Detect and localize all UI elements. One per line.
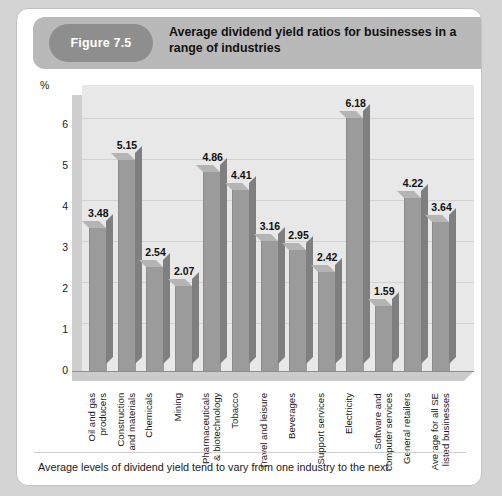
bar-value-label: 2.54: [145, 246, 165, 258]
bar-side-face: [363, 104, 370, 364]
bar-front-face: [432, 222, 450, 371]
bar-side-face: [278, 227, 285, 364]
bar-side-face: [335, 258, 342, 364]
bar-value-label: 4.41: [231, 169, 251, 181]
bar: 4.41: [232, 190, 249, 371]
bar-side-face: [220, 158, 227, 364]
x-axis-label: General retailers: [402, 393, 413, 464]
bar-side-face: [135, 146, 142, 364]
bar-side-face: [449, 208, 456, 364]
x-axis-label: Support services: [316, 393, 327, 464]
figure-caption: Average levels of dividend yield tend to…: [38, 461, 468, 473]
bar-value-label: 3.48: [88, 207, 108, 219]
figure-card: Figure 7.5 Average dividend yield ratios…: [16, 8, 482, 486]
bar-front-face: [232, 190, 250, 371]
x-axis-label: Construction and materials: [116, 393, 137, 451]
bar-side-face: [249, 176, 256, 364]
figure-number-badge: Figure 7.5: [49, 24, 153, 62]
bar-top-face: [82, 221, 106, 228]
x-axis-label: Electricity: [344, 393, 355, 434]
bar-top-face: [225, 183, 249, 190]
bar: 3.48: [89, 228, 106, 371]
bar: 2.07: [175, 286, 192, 371]
bar-side-face: [306, 236, 313, 364]
x-axis-label: Beverages: [287, 393, 298, 439]
x-axis-label: Chemicals: [144, 393, 155, 438]
bar-top-face: [397, 191, 421, 198]
bar-front-face: [175, 286, 193, 371]
bar-side-face: [106, 214, 113, 364]
caption-divider: [34, 452, 466, 453]
bar: 2.42: [318, 272, 335, 371]
bar-side-face: [392, 292, 399, 364]
bar-front-face: [118, 160, 136, 371]
bar: 1.59: [375, 306, 392, 371]
figure-header-band: Figure 7.5 Average dividend yield ratios…: [33, 17, 482, 69]
chart-bars: 3.485.152.542.074.864.413.162.952.426.18…: [34, 71, 482, 391]
bar-front-face: [89, 228, 107, 371]
bar-side-face: [421, 184, 428, 364]
bar-top-face: [425, 215, 449, 222]
bar: 4.86: [203, 172, 220, 371]
x-axis-label: Travel and leisure: [259, 393, 270, 469]
bar: 2.95: [289, 250, 306, 371]
bar-top-face: [339, 111, 363, 118]
bar-value-label: 3.16: [260, 220, 280, 232]
x-axis-label: Tobacco: [230, 393, 241, 429]
chart-plot-area: % 0123456 3.485.152.542.074.864.413.162.…: [34, 71, 482, 451]
bar: 2.54: [146, 267, 163, 371]
bar-top-face: [368, 299, 392, 306]
bar-value-label: 1.59: [374, 285, 394, 297]
bar-value-label: 2.42: [317, 251, 337, 263]
bar-value-label: 5.15: [117, 139, 137, 151]
bar-top-face: [168, 279, 192, 286]
bar-value-label: 4.22: [403, 177, 423, 189]
bar-front-face: [318, 272, 336, 371]
bar-front-face: [346, 118, 364, 371]
bar-side-face: [163, 253, 170, 364]
x-axis-label: Mining: [173, 393, 184, 421]
bar: 4.22: [404, 198, 421, 371]
x-axis-label: Oil and gas producers: [87, 393, 108, 442]
bar-value-label: 2.95: [288, 229, 308, 241]
bar-front-face: [261, 241, 279, 371]
bar-front-face: [146, 267, 164, 371]
bar: 6.18: [346, 118, 363, 371]
bar-top-face: [254, 234, 278, 241]
bar: 3.64: [432, 222, 449, 371]
bar-top-face: [196, 165, 220, 172]
bar-top-face: [139, 260, 163, 267]
bar: 3.16: [261, 241, 278, 371]
bar-front-face: [375, 306, 393, 371]
bar-front-face: [404, 198, 422, 371]
bar-value-label: 4.86: [202, 151, 222, 163]
bar-front-face: [289, 250, 307, 371]
bar-top-face: [282, 243, 306, 250]
bar-value-label: 6.18: [345, 97, 365, 109]
x-axis-label: Pharmaceuticals & biotechnology: [201, 393, 222, 464]
x-axis-label: Average for all SE listed businesses: [430, 393, 451, 470]
bar-top-face: [111, 153, 135, 160]
bar-top-face: [311, 265, 335, 272]
bar-value-label: 2.07: [174, 265, 194, 277]
figure-title: Average dividend yield ratios for busine…: [169, 25, 482, 56]
bar-front-face: [203, 172, 221, 371]
page-root: Figure 7.5 Average dividend yield ratios…: [0, 0, 502, 496]
bar-value-label: 3.64: [431, 201, 451, 213]
bar: 5.15: [118, 160, 135, 371]
x-axis-label: Software and computer services: [373, 393, 394, 471]
